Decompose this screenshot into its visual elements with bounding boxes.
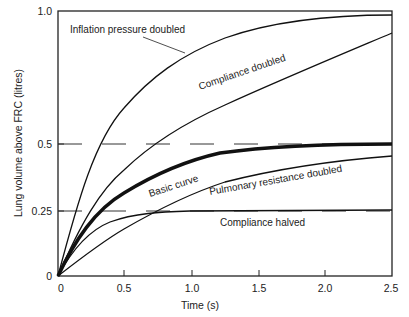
- x-axis-label: Time (s): [181, 299, 219, 311]
- label-pulmonary-resistance-doubled: Pulmonary resistance doubled: [208, 163, 342, 197]
- x-tick-1.0: 1.0: [185, 282, 200, 294]
- curve-pulmonary-resistance-doubled: [58, 156, 392, 276]
- label-inflation-pressure-doubled: Inflation pressure doubled: [70, 24, 185, 35]
- y-axis-ticks: [58, 144, 64, 211]
- x-tick-2.5: 2.5: [384, 282, 399, 294]
- label-compliance-halved: Compliance halved: [220, 217, 305, 228]
- x-axis-ticks: [124, 270, 325, 276]
- y-axis-label: Lung volume above FRC (litres): [12, 69, 24, 217]
- label-compliance-doubled: Compliance doubled: [197, 52, 287, 92]
- y-tick-0.5: 0.5: [37, 138, 52, 150]
- x-tick-0.5: 0.5: [117, 282, 132, 294]
- x-tick-2.0: 2.0: [318, 282, 333, 294]
- y-tick-0: 0: [46, 270, 52, 282]
- inflation-label-leader: [143, 37, 185, 53]
- y-tick-1.0: 1.0: [37, 5, 52, 17]
- x-tick-0: 0: [58, 282, 64, 294]
- lung-volume-chart: Inflation pressure doubled Compliance do…: [0, 0, 409, 317]
- x-tick-1.5: 1.5: [252, 282, 267, 294]
- y-tick-0.25: 0.25: [32, 205, 53, 217]
